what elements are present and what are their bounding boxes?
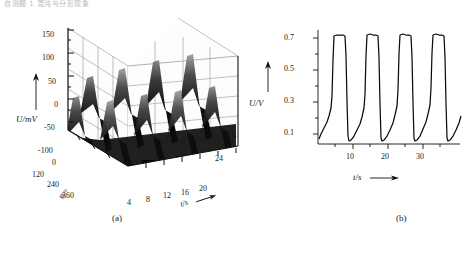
- panel-a-y-arrow-icon: [28, 72, 44, 112]
- panel-a-xtick-24: 24: [215, 154, 223, 163]
- panel-a-ytick-150: 150: [42, 30, 54, 39]
- panel-a-depthtick-120: 120: [32, 170, 44, 179]
- panel-b-caption: (b): [396, 213, 407, 223]
- panel-a-xtick-20: 20: [199, 184, 207, 193]
- panel-a-depthtick-0: 0: [52, 158, 56, 167]
- panel-b-x-arrow-icon: [370, 174, 400, 182]
- panel-b-ytick-01: 0.1: [284, 128, 294, 137]
- top-caption: 自测题 1 混沌与分形现象: [4, 0, 89, 8]
- panel-b-x-ticks: [335, 144, 440, 149]
- panel-a-plot-area: [60, 18, 242, 203]
- panel-b-xtick-20: 20: [381, 152, 389, 161]
- panel-b-ytick-03: 0.3: [284, 96, 294, 105]
- panel-b-xtick-30: 30: [416, 152, 424, 161]
- figure-container: 自测题 1 混沌与分形现象 U/mV 150 100 50 0 -50 -100: [0, 0, 472, 254]
- panel-b-ytick-05: 0.5: [284, 64, 294, 73]
- panel-b-waveform: [319, 34, 461, 141]
- panel-a-depthtick-240: 240: [47, 180, 59, 189]
- panel-a-ytick-m100: -100: [38, 146, 53, 155]
- panel-a-3d-surface: U/mV 150 100 50 0 -50 -100: [0, 10, 245, 225]
- panel-a-xtick-12: 12: [163, 191, 171, 200]
- panel-a-caption: (a): [112, 213, 122, 223]
- panel-a-ytick-100: 100: [42, 53, 54, 62]
- panel-b-y-ticks: [313, 38, 318, 134]
- panel-a-xtick-8: 8: [146, 195, 150, 204]
- panel-b-ytick-07: 0.7: [284, 33, 294, 42]
- panel-b-y-arrow-icon: [260, 60, 276, 94]
- panel-b-x-axis-label: t/s: [353, 172, 362, 182]
- panel-a-xtick-16: 16: [181, 188, 189, 197]
- panel-b-xtick-10: 10: [346, 152, 354, 161]
- panel-b-line-chart: U/V 0.7 0.5 0.3 0.1: [248, 10, 472, 225]
- panel-a-y-axis-label: U/mV: [16, 114, 37, 124]
- panel-b-plot-area: [310, 26, 462, 158]
- panel-a-xtick-4: 4: [127, 198, 131, 207]
- panel-a-ytick-50: 50: [48, 77, 56, 86]
- panel-a-ytick-m50: -50: [44, 123, 55, 132]
- panel-a-ytick-0: 0: [54, 100, 58, 109]
- panel-b-y-axis-label: U/V: [249, 98, 264, 108]
